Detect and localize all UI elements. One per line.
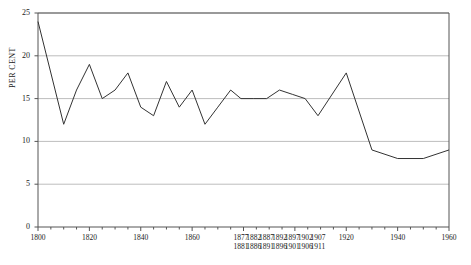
y-tick-label: 25: [8, 9, 30, 17]
x-tick-label: 1800: [24, 233, 52, 242]
y-tick-label: 0: [8, 223, 30, 231]
y-tick-label: 20: [8, 52, 30, 60]
x-tick-label: 1840: [127, 233, 155, 242]
x-tick-label-line1: 1920: [339, 233, 354, 242]
x-tick-label: 1920: [332, 233, 360, 242]
x-tick-label: 1960: [435, 233, 463, 242]
y-tick-label: 10: [8, 137, 30, 145]
x-tick-label-line1: 1840: [133, 233, 148, 242]
chart-container: PER CENT 0510152025 18001820184018601877…: [0, 0, 471, 265]
x-tick-label-line1: 1960: [442, 233, 457, 242]
x-tick-label-line1: 1860: [185, 233, 200, 242]
line-chart-plot: [0, 0, 471, 265]
x-tick-label-line1: 1907: [310, 233, 325, 242]
x-tick-label-line1: 1800: [31, 233, 46, 242]
x-tick-label: 1820: [75, 233, 103, 242]
data-series-line: [38, 22, 449, 159]
x-tick-label-line1: 1820: [82, 233, 97, 242]
x-tick-label: 19071911: [304, 233, 332, 251]
x-tick-label-line2: 1911: [304, 242, 332, 251]
x-tick-label-line1: 1940: [390, 233, 405, 242]
x-tick-label: 1860: [178, 233, 206, 242]
x-tick-label: 1940: [384, 233, 412, 242]
y-tick-label: 5: [8, 180, 30, 188]
y-tick-label: 15: [8, 95, 30, 103]
